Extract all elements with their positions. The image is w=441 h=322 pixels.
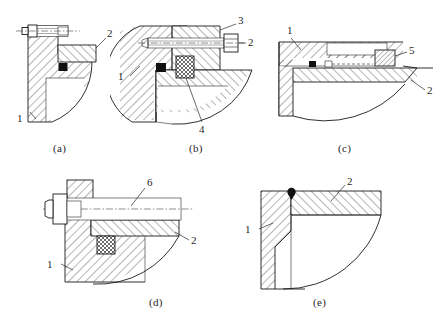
callout-label-2: 2 bbox=[427, 84, 433, 96]
figure-d: 6 2 1 bbox=[35, 170, 235, 300]
figure-b: 3 2 1 4 bbox=[110, 0, 270, 140]
part-hex-bolt bbox=[16, 25, 80, 37]
callout-label-4: 4 bbox=[199, 123, 205, 135]
part-weld-block bbox=[59, 63, 68, 71]
part-weld-block bbox=[156, 63, 166, 72]
callout-label-2: 2 bbox=[248, 36, 254, 48]
part-weld-block bbox=[309, 61, 316, 67]
part-shelf-arm bbox=[150, 64, 260, 124]
callout-label-1: 1 bbox=[118, 70, 124, 82]
callout-2: 2 bbox=[238, 36, 254, 48]
part-cutaway-arc bbox=[275, 215, 381, 289]
figure-c: 1 5 2 bbox=[265, 10, 441, 140]
callout-2: 2 bbox=[175, 232, 197, 246]
callout-label-1: 1 bbox=[17, 112, 23, 124]
callout-2: 2 bbox=[411, 80, 433, 96]
part-plug-insert bbox=[375, 50, 395, 66]
figure-sheet: 2 1 (a) bbox=[0, 0, 441, 322]
part-key-block bbox=[97, 236, 115, 254]
figure-caption-b: (b) bbox=[189, 142, 203, 154]
callout-label-1: 1 bbox=[245, 223, 251, 235]
figure-caption-c: (c) bbox=[338, 142, 351, 154]
callout-3: 3 bbox=[220, 14, 244, 30]
part-shaft bbox=[43, 194, 193, 224]
part-key-block bbox=[176, 56, 194, 78]
callout-label-6: 6 bbox=[147, 176, 153, 188]
part-upper-boss bbox=[166, 20, 228, 78]
callout-label-1: 1 bbox=[47, 258, 53, 270]
callout-label-2: 2 bbox=[347, 175, 353, 187]
callout-label-1: 1 bbox=[287, 24, 293, 36]
figure-caption-d: (d) bbox=[149, 296, 163, 308]
figure-caption-e: (e) bbox=[313, 296, 326, 308]
callout-label-2: 2 bbox=[191, 234, 197, 246]
figure-caption-a: (a) bbox=[53, 142, 66, 154]
figure-e: 2 1 bbox=[235, 175, 415, 300]
part-horizontal-leg bbox=[285, 185, 389, 221]
callout-label-5: 5 bbox=[409, 44, 415, 56]
callout-label-3: 3 bbox=[238, 14, 244, 26]
